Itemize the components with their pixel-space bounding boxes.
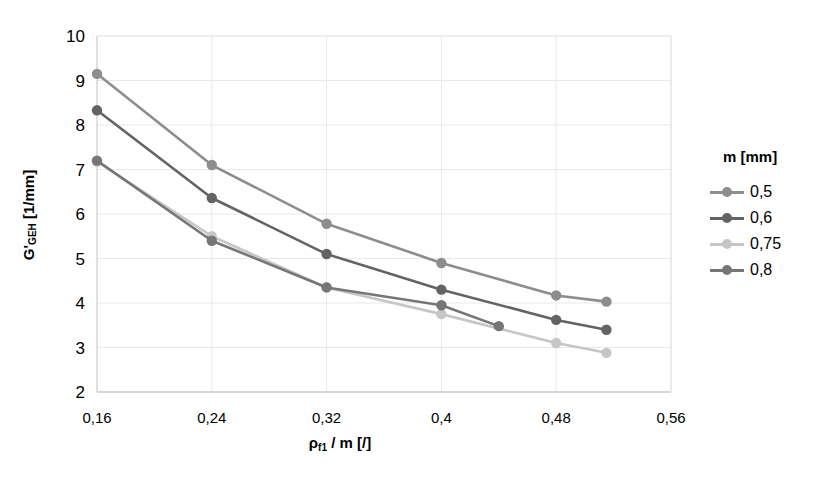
legend-item-label: 0,75 xyxy=(750,235,781,253)
y-tick-label: 9 xyxy=(51,73,85,90)
data-point xyxy=(92,105,102,115)
chart-container: 1098765432 0,160,240,320,40,480,56 G'GEH… xyxy=(0,0,824,485)
series-0-8 xyxy=(92,155,504,331)
data-point xyxy=(321,282,331,292)
series-0-6 xyxy=(92,105,612,335)
legend-item-0-5[interactable]: 0,5 xyxy=(710,179,820,205)
data-point xyxy=(321,219,331,229)
x-tick-label: 0,56 xyxy=(641,410,701,425)
data-point xyxy=(207,160,217,170)
data-point xyxy=(436,284,446,294)
data-point xyxy=(92,155,102,165)
legend-marker-dot xyxy=(722,187,732,197)
series-0-5 xyxy=(92,69,612,307)
legend-swatch xyxy=(710,185,744,199)
x-tick-label: 0,24 xyxy=(182,410,242,425)
series-line xyxy=(97,161,606,352)
legend-title: m [mm] xyxy=(723,148,820,165)
y-tick-label: 8 xyxy=(51,117,85,134)
legend-item-label: 0,8 xyxy=(750,261,772,279)
x-tick-label: 0,32 xyxy=(297,410,357,425)
legend-marker-dot xyxy=(722,265,732,275)
legend-item-0-8[interactable]: 0,8 xyxy=(710,257,820,283)
x-tick-label: 0,16 xyxy=(67,410,127,425)
data-point xyxy=(207,236,217,246)
y-tick-label: 10 xyxy=(51,28,85,45)
data-point xyxy=(207,193,217,203)
y-axis-title-unit: [1/mm] xyxy=(20,170,37,223)
x-tick-label: 0,4 xyxy=(411,410,471,425)
y-axis-title-subscript: GEH xyxy=(27,223,38,245)
y-tick-label: 2 xyxy=(51,384,85,401)
legend-swatch xyxy=(710,237,744,251)
x-axis-title: ρf1 / m [/] xyxy=(0,434,680,453)
y-tick-label: 3 xyxy=(51,340,85,357)
x-axis-title-subscript: f1 xyxy=(318,442,327,453)
series-line xyxy=(97,110,606,329)
legend-item-0-6[interactable]: 0,6 xyxy=(710,205,820,231)
legend-item-label: 0,6 xyxy=(750,209,772,227)
legend-marker-dot xyxy=(722,239,732,249)
data-point xyxy=(436,300,446,310)
y-tick-label: 7 xyxy=(51,162,85,179)
legend-item-0-75[interactable]: 0,75 xyxy=(710,231,820,257)
data-point xyxy=(494,321,504,331)
y-tick-label: 4 xyxy=(51,295,85,312)
y-tick-label: 5 xyxy=(51,251,85,268)
y-axis-title-main: G' xyxy=(20,245,37,260)
series-0-75 xyxy=(92,156,612,358)
legend-items: 0,50,60,750,8 xyxy=(710,179,820,283)
data-point xyxy=(321,249,331,259)
data-point xyxy=(601,348,611,358)
data-point xyxy=(601,296,611,306)
series-group xyxy=(92,69,612,358)
data-point xyxy=(601,325,611,335)
data-point xyxy=(436,258,446,268)
legend-item-label: 0,5 xyxy=(750,183,772,201)
x-axis-title-main: ρ xyxy=(309,434,318,451)
x-axis-title-unit: / m [/] xyxy=(327,434,371,451)
y-axis-title: G'GEH [1/mm] xyxy=(14,140,44,290)
gridlines xyxy=(97,36,671,392)
series-line xyxy=(97,74,606,302)
data-point xyxy=(551,315,561,325)
data-point xyxy=(551,338,561,348)
legend-swatch xyxy=(710,211,744,225)
x-tick-label: 0,48 xyxy=(526,410,586,425)
y-tick-label: 6 xyxy=(51,206,85,223)
legend: m [mm] 0,50,60,750,8 xyxy=(710,148,820,283)
legend-swatch xyxy=(710,263,744,277)
legend-marker-dot xyxy=(722,213,732,223)
data-point xyxy=(436,309,446,319)
data-point xyxy=(92,69,102,79)
data-point xyxy=(551,290,561,300)
